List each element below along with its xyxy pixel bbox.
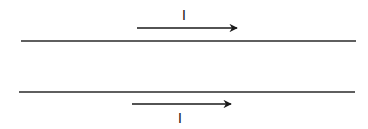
bottom-wire-group: I xyxy=(19,92,355,126)
bottom-current-label: I xyxy=(178,110,182,126)
parallel-wires-diagram: I I xyxy=(0,0,368,129)
top-wire-group: I xyxy=(21,7,356,41)
top-current-label: I xyxy=(182,7,186,23)
